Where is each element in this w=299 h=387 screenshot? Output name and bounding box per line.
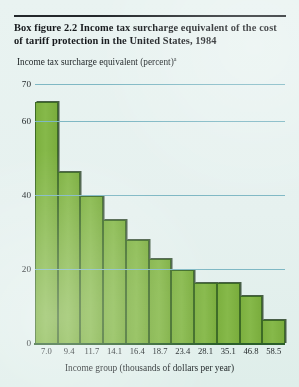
- y-axis-title: Income tax surcharge equivalent (percent…: [17, 57, 177, 68]
- bar: [240, 296, 263, 344]
- x-axis-line: [34, 343, 285, 345]
- bar: [194, 283, 217, 344]
- bar-cell: [194, 85, 217, 344]
- bar-cell: [80, 85, 103, 344]
- gridline: 70: [35, 84, 285, 85]
- bar-cell: [103, 85, 126, 344]
- gridline: 40: [35, 195, 285, 196]
- x-axis-tick-label: 23.4: [171, 346, 194, 356]
- y-axis-tick-label: 40: [22, 190, 31, 200]
- gridline: 60: [35, 121, 285, 122]
- y-axis-tick-label: 70: [22, 79, 31, 89]
- x-axis-tick-label: 11.7: [80, 346, 103, 356]
- title-rule: [14, 15, 286, 17]
- bar-cell: [58, 85, 81, 344]
- x-axis-tick-label: 16.4: [126, 346, 149, 356]
- y-axis-tick-label: 20: [22, 264, 31, 274]
- bar: [262, 320, 285, 344]
- x-axis-tick-label: 46.8: [240, 346, 263, 356]
- bar-cell: [149, 85, 172, 344]
- bar: [149, 259, 172, 344]
- y-axis-tick-label: 60: [22, 116, 31, 126]
- page-title: Box figure 2.2 Income tax surcharge equi…: [14, 21, 288, 48]
- bar: [58, 172, 81, 344]
- plot-area: 020406070: [35, 85, 285, 344]
- bar: [80, 196, 103, 344]
- x-axis-tick-label: 35.1: [217, 346, 240, 356]
- x-axis-tick-labels: 7.09.411.714.116.418.723.428.135.146.858…: [35, 346, 285, 356]
- bar-cell: [262, 85, 285, 344]
- bar-cell: [217, 85, 240, 344]
- y-axis-tick-label: 0: [26, 338, 31, 348]
- bar-cell: [171, 85, 194, 344]
- x-axis-tick-label: 9.4: [58, 346, 81, 356]
- figure-page: Box figure 2.2 Income tax surcharge equi…: [0, 0, 299, 387]
- bar-cell: [35, 85, 58, 344]
- bar-series: [35, 85, 285, 344]
- bar: [126, 240, 149, 344]
- gridline: 20: [35, 269, 285, 270]
- footnote-marker: a: [174, 55, 177, 62]
- y-axis-title-text: Income tax surcharge equivalent (percent…: [17, 57, 174, 67]
- x-axis-tick-label: 14.1: [103, 346, 126, 356]
- bar: [35, 102, 58, 344]
- bar: [103, 220, 126, 344]
- x-axis-tick-label: 7.0: [35, 346, 58, 356]
- bar-cell: [126, 85, 149, 344]
- bar-cell: [240, 85, 263, 344]
- x-axis-title: Income group (thousands of dollars per y…: [0, 363, 299, 373]
- bar: [171, 270, 194, 344]
- x-axis-tick-label: 58.5: [262, 346, 285, 356]
- bar: [217, 283, 240, 344]
- x-axis-tick-label: 18.7: [149, 346, 172, 356]
- x-axis-tick-label: 28.1: [194, 346, 217, 356]
